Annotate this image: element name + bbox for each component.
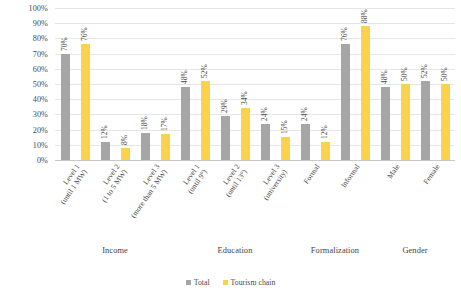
y-axis-tick-90: 90% [33,19,48,28]
bar-value-label: 88% [360,9,369,23]
bar-value-label: 8% [120,135,129,145]
bar-pair: 70%76% [55,8,95,160]
bar-slot: 18% [135,8,155,160]
bar-value-label: 24% [300,107,309,121]
bar-total[interactable]: 48% [181,87,190,160]
y-axis-tick-10: 10% [33,140,48,149]
bar-slot: 48% [175,8,195,160]
x-axis-group-labels: IncomeEducationFormalizationGender [55,246,455,262]
bar-chain[interactable]: 52% [201,81,210,160]
legend-label: Total [194,278,210,287]
x-labels-education: Level 1(until 9°)Level 2(until 13°)Level… [175,163,295,229]
x-category-text: Female [422,163,442,186]
x-category-label: Level 1(until 9°) [175,163,215,229]
bar-supergroup-income: 70%76%12%8%18%17% [55,8,175,160]
bar-pair: 52%50% [415,8,455,160]
bar-pair: 24%15% [255,8,295,160]
bar-supergroup-formalization: 24%12%76%88% [295,8,375,160]
y-axis-tick-0: 0% [37,156,48,165]
bar-chain[interactable]: 88% [361,26,370,160]
x-labels-gender: MaleFemale [375,163,455,229]
bar-slot: 12% [315,8,335,160]
bar-groups: 70%76%12%8%18%17%48%52%29%34%24%15%24%12… [55,8,455,160]
bar-value-label: 24% [260,107,269,121]
bar-slot: 50% [435,8,455,160]
bar-total[interactable]: 52% [421,81,430,160]
legend-label: Tourism chain [231,278,276,287]
bar-pair: 24%12% [295,8,335,160]
y-axis-tick-40: 40% [33,95,48,104]
bar-total[interactable]: 12% [101,142,110,160]
legend-item-total[interactable]: Total [186,278,210,287]
y-axis-tick-70: 70% [33,49,48,58]
group-label-income: Income [55,246,175,262]
bar-total[interactable]: 18% [141,133,150,160]
x-category-label: Level 3(more than 5 MW) [135,163,175,229]
x-category-text: Level 1(until 1 MW) [52,163,89,206]
gridline-0 [55,160,455,161]
bar-pair: 12%8% [95,8,135,160]
y-axis-tick-30: 30% [33,110,48,119]
y-axis-tick-60: 60% [33,64,48,73]
bar-slot: 88% [355,8,375,160]
bar-value-label: 76% [340,28,349,42]
bar-value-label: 12% [320,125,329,139]
bar-value-label: 12% [100,125,109,139]
bar-chain[interactable]: 50% [401,84,410,160]
y-axis-tick-labels: 100%90%80%70%60%50%40%30%20%10%0% [0,0,55,160]
bar-value-label: 34% [240,91,249,105]
x-category-text: Level 1(until 9°) [179,163,209,196]
bar-pair: 29%34% [215,8,255,160]
bar-value-label: 52% [420,64,429,78]
bar-value-label: 70% [60,37,69,51]
group-label-education: Education [175,246,295,262]
bar-slot: 70% [55,8,75,160]
x-axis-category-labels: Level 1(until 1 MW)Level 2(1 to 5 MW)Lev… [55,163,455,229]
x-labels-formalization: FormalInformal [295,163,375,229]
x-category-subtext: (until 9°) [186,168,209,196]
bar-total[interactable]: 29% [221,116,230,160]
x-category-text: Informal [340,163,362,190]
bar-total[interactable]: 24% [261,124,270,160]
bar-chain[interactable]: 12% [321,142,330,160]
bar-slot: 52% [195,8,215,160]
bar-total[interactable]: 76% [341,44,350,160]
bar-slot: 52% [415,8,435,160]
y-axis-tick-50: 50% [33,80,48,89]
bar-slot: 50% [395,8,415,160]
bar-value-label: 48% [180,70,189,84]
bar-value-label: 18% [140,116,149,130]
x-category-label: Male [375,163,415,229]
bar-slot: 48% [375,8,395,160]
bar-slot: 8% [115,8,135,160]
x-category-text: Formal [302,163,322,186]
bar-value-label: 50% [400,67,409,81]
bar-total[interactable]: 70% [61,54,70,160]
chart-legend: TotalTourism chain [0,278,461,287]
bar-total[interactable]: 48% [381,87,390,160]
x-category-subtext: (university) [262,168,289,202]
bar-total[interactable]: 24% [301,124,310,160]
x-category-text: Male [386,163,402,181]
bar-pair: 48%52% [175,8,215,160]
group-label-formalization: Formalization [295,246,375,262]
x-category-label: Level 2(until 13°) [215,163,255,229]
bar-pair: 48%50% [375,8,415,160]
bar-value-label: 76% [80,28,89,42]
bar-slot: 29% [215,8,235,160]
bar-slot: 24% [255,8,275,160]
bar-pair: 18%17% [135,8,175,160]
bar-value-label: 15% [280,120,289,134]
bar-chart: 100%90%80%70%60%50%40%30%20%10%0% 70%76%… [0,0,461,301]
bar-chain[interactable]: 8% [121,148,130,160]
bar-slot: 34% [235,8,255,160]
bar-supergroup-education: 48%52%29%34%24%15% [175,8,295,160]
bar-chain[interactable]: 76% [81,44,90,160]
bar-chain[interactable]: 17% [161,134,170,160]
bar-chain[interactable]: 34% [241,108,250,160]
x-category-subtext: (until 13°) [224,168,249,199]
legend-item-tourism-chain[interactable]: Tourism chain [223,278,276,287]
x-category-label: Level 2(1 to 5 MW) [95,163,135,229]
bar-chain[interactable]: 15% [281,137,290,160]
bar-chain[interactable]: 50% [441,84,450,160]
